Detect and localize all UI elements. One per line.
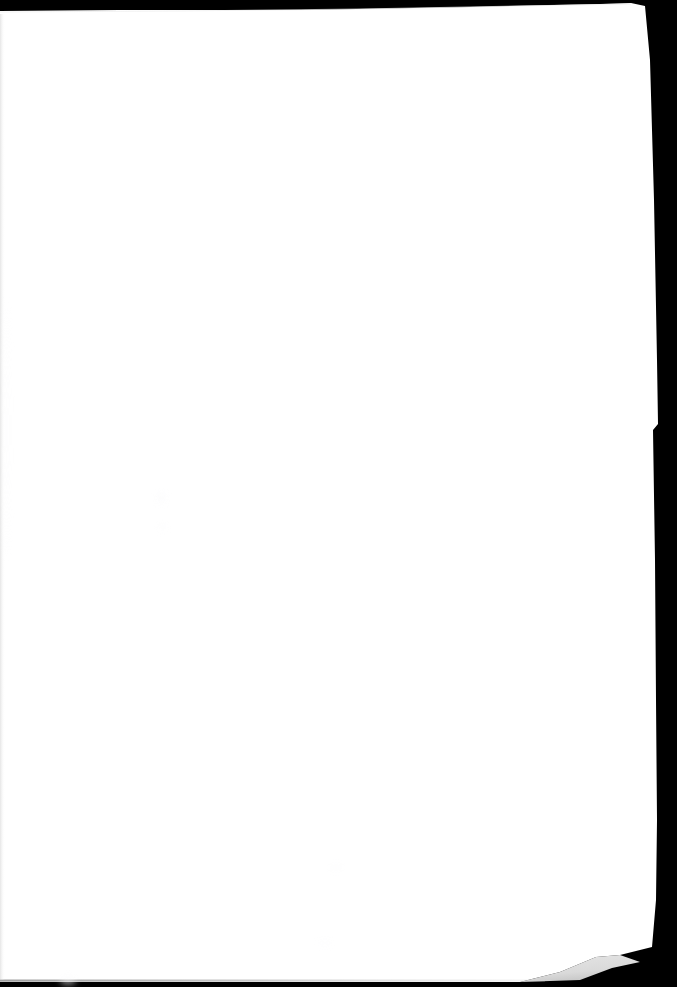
scan-viewport (0, 0, 677, 987)
left-edge-shade (0, 14, 5, 980)
bottom-edge-shadow (0, 980, 545, 982)
page-body-text (40, 50, 600, 930)
